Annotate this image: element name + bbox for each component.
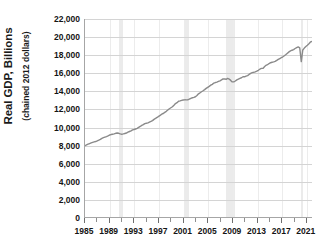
- gdp-line-chart: Real GDP, Billions (chained 2012 dollars…: [0, 0, 328, 249]
- x-axis-tick: [244, 218, 245, 222]
- x-axis-ticks: [84, 218, 313, 223]
- y-axis-tick-label: 22,000: [30, 14, 80, 24]
- x-axis-tick: [306, 218, 307, 223]
- y-axis-tick-label: 12,000: [30, 104, 80, 114]
- y-axis-tick-label: 0: [30, 213, 80, 223]
- x-axis-tick: [146, 218, 147, 222]
- x-axis-tick: [294, 218, 295, 222]
- x-axis-tick: [232, 218, 233, 223]
- y-axis-tick-label: 4,000: [30, 177, 80, 187]
- x-axis-tick: [96, 218, 97, 222]
- y-axis-tick-label: 14,000: [30, 86, 80, 96]
- x-axis-tick: [269, 218, 270, 222]
- x-axis-tick: [133, 218, 134, 223]
- y-axis-tick-label: 8,000: [30, 141, 80, 151]
- x-axis-tick: [257, 218, 258, 223]
- y-axis-tick-labels: 02,0004,0006,0008,00010,00012,00014,0001…: [30, 0, 80, 249]
- x-axis-tick: [281, 218, 282, 223]
- plot-area: [84, 19, 312, 218]
- x-axis-tick: [207, 218, 208, 223]
- x-axis-tick: [220, 218, 221, 222]
- x-axis-tick: [158, 218, 159, 223]
- x-axis-tick: [195, 218, 196, 222]
- y-axis-tick-label: 16,000: [30, 68, 80, 78]
- x-axis-tick: [121, 218, 122, 222]
- x-axis-tick-labels: 1985198919931997200120052009201320172021: [0, 226, 328, 242]
- x-axis-tick-label: 2021: [286, 226, 326, 236]
- y-axis-tick-label: 6,000: [30, 159, 80, 169]
- y-axis-tick-label: 20,000: [30, 32, 80, 42]
- y-axis-tick-label: 2,000: [30, 195, 80, 205]
- series-line-real-gdp: [85, 41, 312, 145]
- x-axis-tick: [183, 218, 184, 223]
- x-axis-tick: [84, 218, 85, 223]
- y-axis-tick-label: 10,000: [30, 123, 80, 133]
- y-axis-title-main: Real GDP, Billions: [2, 27, 14, 124]
- x-axis-tick: [109, 218, 110, 223]
- data-series-real-gdp: [85, 19, 312, 217]
- x-axis-tick: [170, 218, 171, 222]
- y-axis-tick-label: 18,000: [30, 50, 80, 60]
